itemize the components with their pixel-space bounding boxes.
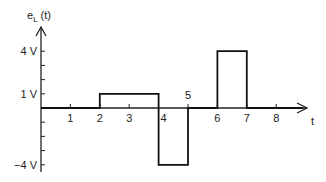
x-tick-label: 5 xyxy=(185,89,191,101)
x-tick-label: 3 xyxy=(126,112,132,124)
x-tick-label: 6 xyxy=(214,112,220,124)
x-axis-label: t xyxy=(311,115,314,127)
labels: 123456784 V1 V−4 VeL(t)t xyxy=(14,9,314,171)
axes xyxy=(36,27,307,172)
x-tick-label: 7 xyxy=(244,112,250,124)
x-tick-label: 8 xyxy=(273,112,279,124)
x-tick-label: 1 xyxy=(67,112,73,124)
y-tick-label: −4 V xyxy=(14,159,38,171)
x-tick-label: 2 xyxy=(97,112,103,124)
y-tick-label: 4 V xyxy=(20,45,37,57)
x-tick-label: 4 xyxy=(161,112,167,124)
y-axis-label-subscript: L xyxy=(33,15,38,24)
chart: 123456784 V1 V−4 VeL(t)t xyxy=(0,0,326,182)
y-axis-label: eL(t) xyxy=(27,9,51,24)
y-axis-label-arg: (t) xyxy=(41,9,51,21)
y-tick-label: 1 V xyxy=(20,88,37,100)
